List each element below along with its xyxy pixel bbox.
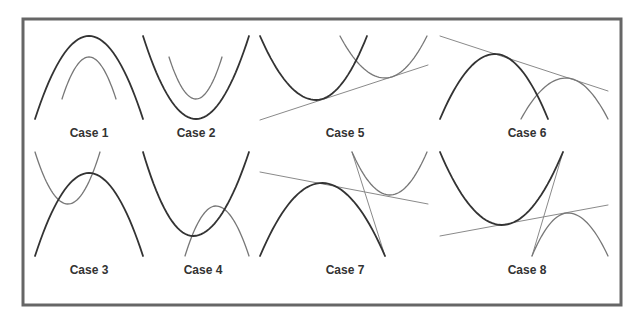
case-label: Case 6 [508, 126, 547, 140]
case-5: Case 5 [260, 36, 428, 140]
tangent-line [440, 36, 608, 91]
secondary-parabola [185, 206, 249, 256]
case-label: Case 3 [70, 263, 109, 277]
case-label: Case 1 [70, 126, 109, 140]
case-2: Case 2 [143, 36, 249, 140]
case-label: Case 5 [326, 126, 365, 140]
tangent-line [260, 65, 428, 120]
case-3: Case 3 [35, 152, 143, 277]
case-4: Case 4 [143, 152, 249, 277]
case-1: Case 1 [35, 36, 143, 140]
case-7: Case 7 [260, 152, 428, 277]
primary-parabola [143, 36, 249, 119]
secondary-parabola [521, 78, 608, 119]
primary-parabola [35, 36, 143, 119]
case-6: Case 6 [440, 36, 608, 140]
case-label: Case 2 [177, 126, 216, 140]
case-label: Case 7 [326, 263, 365, 277]
primary-parabola [440, 54, 548, 119]
cases-group: Case 1Case 2Case 3Case 4Case 5Case 6Case… [35, 36, 608, 277]
secondary-parabola [340, 36, 427, 78]
case-8: Case 8 [440, 152, 608, 277]
tangent-line [260, 172, 428, 204]
secondary-parabola [35, 152, 100, 204]
primary-parabola [143, 152, 249, 236]
tangent-line [352, 152, 385, 256]
secondary-parabola [169, 57, 222, 99]
primary-parabola [35, 173, 143, 256]
case-label: Case 8 [508, 263, 547, 277]
secondary-parabola [62, 57, 116, 99]
primary-parabola [260, 183, 385, 256]
case-label: Case 4 [184, 263, 223, 277]
tangent-line [440, 205, 608, 236]
tangent-line [532, 152, 563, 256]
parabola-cases-diagram: Case 1Case 2Case 3Case 4Case 5Case 6Case… [0, 0, 642, 317]
